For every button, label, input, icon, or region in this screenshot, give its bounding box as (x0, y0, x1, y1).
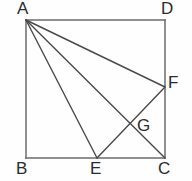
vertex-label-F: F (168, 74, 178, 91)
vertex-label-D: D (161, 0, 173, 17)
segment-AC (26, 20, 165, 158)
segment-AE (26, 20, 97, 158)
vertex-label-B: B (16, 160, 27, 177)
vertex-label-C: C (158, 160, 170, 177)
figure-segments (26, 20, 165, 158)
figure-canvas (0, 0, 192, 181)
vertex-label-E: E (90, 160, 101, 177)
vertex-label-G: G (137, 117, 150, 134)
geometry-figure: A D F G B E C (0, 0, 192, 181)
segment-AF (26, 20, 165, 87)
vertex-label-A: A (17, 0, 28, 17)
